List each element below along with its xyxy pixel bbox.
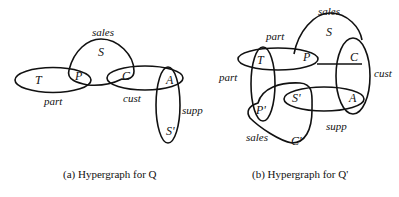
node-c: C <box>122 69 131 83</box>
node-s-prime: S' <box>292 91 301 105</box>
edge-label-part: part <box>43 95 63 107</box>
node-t: T <box>257 53 265 67</box>
node-t: T <box>35 73 43 87</box>
edge-label-part-left: part <box>218 71 238 83</box>
edge-label-sales: sales <box>92 26 114 38</box>
node-p: P <box>74 69 83 83</box>
edge-label-sales-top: sales <box>318 5 340 17</box>
node-c: C <box>350 50 359 64</box>
node-s: S <box>98 45 104 59</box>
node-p: P <box>302 50 311 64</box>
node-s-prime: S' <box>166 124 175 138</box>
node-a: A <box>348 91 357 105</box>
hypergraph-q-prime: T P S C S' A P' C' sales part part cust … <box>218 5 393 181</box>
edge-label-cust: cust <box>123 92 142 104</box>
caption-b: (b) Hypergraph for Q' <box>252 168 348 181</box>
node-s: S <box>326 25 332 39</box>
hypergraph-figure: T P S C A S' sales part cust supp (a) Hy… <box>0 0 399 197</box>
node-c-prime: C' <box>291 134 302 148</box>
caption-a: (a) Hypergraph for Q <box>63 168 157 181</box>
edge-label-part-top: part <box>265 30 285 42</box>
hypergraph-q: T P S C A S' sales part cust supp (a) Hy… <box>15 26 203 181</box>
edge-label-supp: supp <box>326 120 347 132</box>
node-p-prime: P' <box>255 103 266 117</box>
edge-label-supp: supp <box>182 104 203 116</box>
node-a: A <box>165 73 174 87</box>
edge-label-sales-bottom: sales <box>246 131 268 143</box>
edge-label-cust: cust <box>374 67 393 79</box>
